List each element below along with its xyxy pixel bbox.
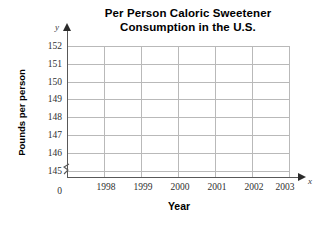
- y-tick-label: 146: [36, 148, 62, 158]
- y-axis-arrow-icon: [63, 23, 71, 31]
- chart-title-line-2: Consumption in the U.S.: [68, 20, 308, 34]
- y-axis-line: [67, 30, 68, 178]
- axis-break-icon: [62, 163, 74, 175]
- x-axis-letter: x: [308, 176, 312, 186]
- y-tick-label: 149: [36, 94, 62, 104]
- gridline-vertical: [141, 46, 142, 178]
- y-tick-label: 148: [36, 112, 62, 122]
- x-tick-label: 1999: [123, 182, 163, 192]
- x-tick-label: 2001: [197, 182, 237, 192]
- plot-area: [68, 46, 290, 178]
- x-axis-arrow-icon: [298, 173, 306, 181]
- x-axis-title: Year: [68, 200, 290, 212]
- gridline-horizontal: [68, 99, 290, 100]
- gridline-horizontal: [68, 46, 290, 47]
- gridline-vertical: [252, 46, 253, 178]
- gridline-vertical: [215, 46, 216, 178]
- gridline-vertical: [178, 46, 179, 178]
- caloric-sweetener-chart: Per Person Caloric Sweetener Consumption…: [0, 0, 321, 229]
- gridline-horizontal: [68, 135, 290, 136]
- chart-title-line-1: Per Person Caloric Sweetener: [68, 6, 308, 20]
- y-tick-label: 150: [36, 77, 62, 87]
- gridline-horizontal: [68, 117, 290, 118]
- y-tick-label: 151: [36, 59, 62, 69]
- y-tick-labels: 152 151 150 149 148 147 146 145 0: [36, 0, 62, 229]
- x-tick-label: 2000: [160, 182, 200, 192]
- chart-title: Per Person Caloric Sweetener Consumption…: [68, 6, 308, 34]
- x-axis-line: [67, 177, 300, 178]
- y-origin-label: 0: [36, 186, 62, 196]
- x-tick-label: 2003: [265, 182, 305, 192]
- gridline-vertical: [289, 46, 290, 178]
- x-tick-label: 1998: [86, 182, 126, 192]
- y-tick-label: 145: [36, 166, 62, 176]
- y-axis-title: Pounds per person: [16, 58, 27, 168]
- y-tick-label: 152: [36, 41, 62, 51]
- gridline-vertical: [104, 46, 105, 178]
- gridline-horizontal: [68, 82, 290, 83]
- gridline-horizontal: [68, 64, 290, 65]
- gridline-horizontal: [68, 153, 290, 154]
- gridline-horizontal: [68, 171, 290, 172]
- y-tick-label: 147: [36, 130, 62, 140]
